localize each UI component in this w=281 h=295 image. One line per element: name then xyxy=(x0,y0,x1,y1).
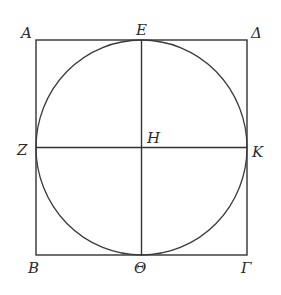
label-Delta: Δ xyxy=(250,24,262,42)
geometry-diagram: A E Δ Z H K B Θ Γ xyxy=(0,0,281,295)
label-H: H xyxy=(146,129,161,147)
label-K: K xyxy=(251,143,264,161)
label-E: E xyxy=(135,21,147,39)
label-Theta: Θ xyxy=(134,259,146,277)
label-B: B xyxy=(27,259,39,277)
label-Z: Z xyxy=(16,141,28,159)
label-Gamma: Γ xyxy=(240,259,252,277)
label-A: A xyxy=(19,24,32,42)
